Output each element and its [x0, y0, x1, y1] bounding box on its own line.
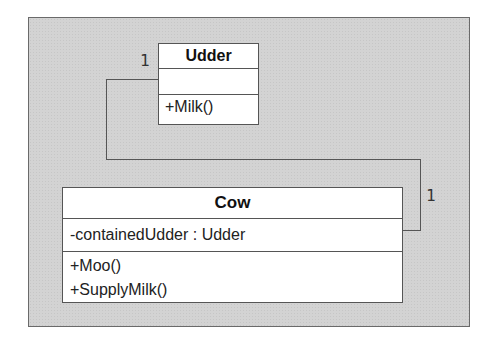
association-line-segment: [403, 230, 421, 231]
class-udder-attributes: [159, 68, 258, 94]
class-udder[interactable]: Udder +Milk(): [158, 43, 259, 125]
method-supply-milk: +SupplyMilk(): [70, 278, 402, 302]
class-cow[interactable]: Cow -containedUdder : Udder +Moo() +Supp…: [62, 187, 403, 303]
class-cow-name: Cow: [63, 188, 402, 218]
class-udder-methods: +Milk(): [159, 94, 258, 124]
method-milk: +Milk(): [165, 98, 258, 116]
class-udder-name: Udder: [159, 44, 258, 68]
class-cow-attributes: -containedUdder : Udder: [63, 218, 402, 251]
association-line-segment: [420, 159, 421, 231]
class-cow-methods: +Moo() +SupplyMilk(): [63, 251, 402, 302]
method-moo: +Moo(): [70, 254, 402, 278]
association-line-segment: [106, 159, 421, 160]
association-line-segment: [106, 79, 107, 160]
cow-multiplicity-label: 1: [426, 186, 436, 205]
udder-multiplicity-label: 1: [140, 51, 150, 70]
association-line-segment: [106, 79, 159, 80]
attribute-contained-udder: -containedUdder : Udder: [70, 226, 402, 244]
